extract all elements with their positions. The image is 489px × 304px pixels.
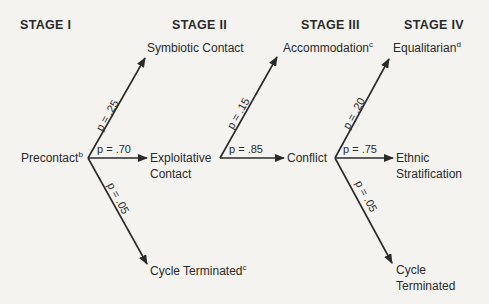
node-conflict: Conflict	[287, 150, 327, 166]
prob-label: p = .70	[97, 143, 131, 155]
prob-label: p = .75	[343, 143, 377, 155]
prob-label: p = .20	[340, 95, 367, 131]
node-cycle-terminated-2: CycleTerminated	[396, 262, 455, 294]
node-precontact: Precontactb	[21, 150, 83, 166]
node-symbiotic-contact: Symbiotic Contact	[147, 40, 244, 56]
prob-label: p = .25	[93, 98, 120, 133]
arrow-conflict-terminated	[335, 158, 392, 263]
arrow-precontact-terminated	[88, 158, 147, 264]
node-ethnic-stratification: EthnicStratification	[396, 150, 462, 182]
prob-label: p = .05	[105, 180, 132, 216]
node-accommodation: Accommodationc	[283, 40, 373, 56]
node-cycle-terminated-1: Cycle Terminatedc	[150, 263, 246, 279]
prob-label: p = .05	[353, 178, 380, 214]
node-exploitative-contact: ExploitativeContact	[150, 150, 211, 182]
prob-label: p = .85	[229, 143, 263, 155]
node-equalitarian: Equalitariand	[393, 40, 461, 56]
